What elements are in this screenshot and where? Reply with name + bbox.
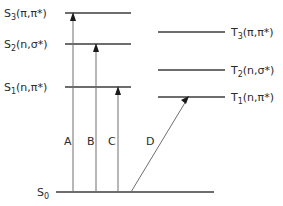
- label-t1: T1(n,π*): [230, 91, 274, 106]
- transition-arrow-b: [93, 43, 99, 192]
- label-transition-b: B: [87, 135, 95, 148]
- label-s3: S3(π,π*): [4, 7, 47, 22]
- label-transition-a: A: [64, 135, 72, 148]
- transition-arrow-a: [70, 12, 76, 192]
- label-transition-d: D: [146, 135, 154, 148]
- jablonski-diagram: S3(π,π*) S2(n,σ*) S1(n,π*) S0 T3(π,π*) T…: [0, 0, 283, 206]
- transition-arrow-d: [131, 96, 189, 192]
- label-t2: T2(n,σ*): [230, 64, 274, 79]
- label-s1: S1(n,π*): [4, 81, 47, 96]
- label-t3: T3(π,π*): [230, 26, 274, 41]
- label-transition-c: C: [108, 135, 116, 148]
- transition-arrow-c: [115, 86, 121, 192]
- label-s0: S0: [37, 186, 49, 201]
- label-s2: S2(n,σ*): [4, 38, 48, 53]
- energy-level-diagram-canvas: S3(π,π*) S2(n,σ*) S1(n,π*) S0 T3(π,π*) T…: [0, 0, 283, 206]
